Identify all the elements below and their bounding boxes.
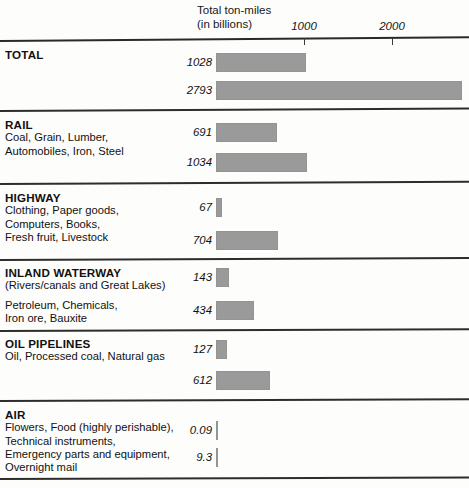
bar-row: 691 [0,120,469,144]
section-divider [0,328,469,331]
section-divider [0,398,469,401]
bar-value-label: 434 [150,298,212,322]
bar-row: 67 [0,195,469,219]
bar-row: 143 [0,265,469,289]
bar [216,53,306,72]
bar-value-label: 67 [150,195,212,219]
bar-value-label: 691 [150,120,212,144]
bar-row: 704 [0,228,469,252]
bar [216,231,278,250]
section-divider [0,477,469,480]
axis-tick-1000 [304,38,305,45]
axis-line [0,36,469,41]
bar [216,301,254,320]
bar-value-label: 2793 [150,78,212,102]
section-divider [0,257,469,260]
bar-value-label: 9.3 [150,445,212,469]
axis-tick-label-1000: 1000 [291,20,317,32]
axis-title: Total ton-miles(in billions) [197,4,271,31]
bar [216,123,277,142]
bar [216,153,307,172]
bar-row: 1028 [0,50,469,74]
bar [216,448,218,467]
bar-value-label: 127 [150,337,212,361]
bar-value-label: 1028 [150,50,212,74]
bar-row: 127 [0,337,469,361]
axis-title-main: Total ton-miles [197,4,271,16]
bar-row: 2793 [0,78,469,102]
bar-row: 9.3 [0,445,469,469]
bar [216,268,229,287]
section-divider [0,108,469,112]
axis-tick-label-2000: 2000 [379,20,405,32]
bar-row: 612 [0,368,469,392]
bar [216,421,218,440]
bar-row: 434 [0,298,469,322]
bar [216,340,227,359]
ton-miles-bar-chart: Total ton-miles(in billions) 10002000TOT… [0,0,469,488]
bar-value-label: 143 [150,265,212,289]
bar [216,198,222,217]
bar-value-label: 1034 [150,150,212,174]
bar-value-label: 704 [150,228,212,252]
axis-title-units: (in billions) [197,18,252,30]
bar-value-label: 0.09 [150,418,212,442]
bar-row: 0.09 [0,418,469,442]
bar [216,81,462,100]
section-divider [0,181,469,185]
axis-tick-2000 [392,38,393,45]
bar-value-label: 612 [150,368,212,392]
bar [216,371,270,390]
bar-row: 1034 [0,150,469,174]
